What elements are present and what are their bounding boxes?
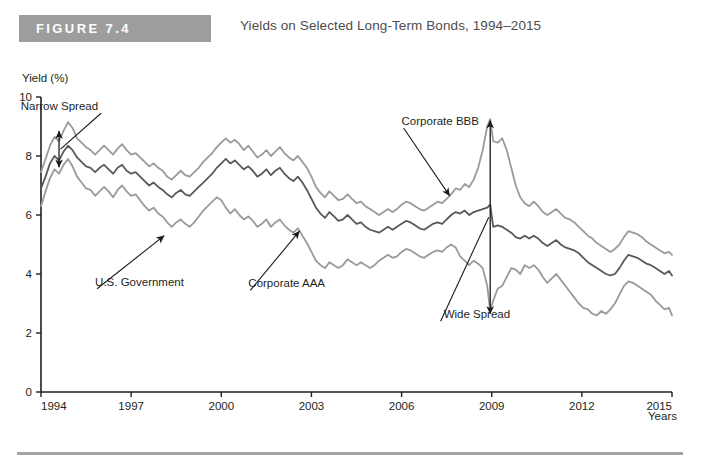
x-tick-label: 2012 (569, 400, 595, 412)
chart-container: Yield (%) Years 024681019941997200020032… (0, 0, 701, 462)
chart-plot-svg: 024681019941997200020032006200920122015N… (0, 0, 701, 462)
x-tick-label: 1997 (118, 400, 144, 412)
x-tick-label: 1994 (41, 400, 67, 412)
x-tick-label: 2000 (208, 400, 234, 412)
y-tick-label: 4 (26, 268, 33, 280)
x-tick-label: 2009 (479, 400, 505, 412)
footer-divider-rule (17, 452, 683, 455)
annotation-leader-wide-spread (441, 217, 489, 321)
annotation-leader-corporate-bbb (404, 128, 450, 196)
annotation-leader-narrow-spread (61, 113, 102, 149)
annotation-label-corporate-aaa: Corporate AAA (248, 277, 325, 289)
series-line-u-s-government (41, 159, 672, 315)
x-tick-label: 2003 (299, 400, 325, 412)
y-tick-label: 8 (26, 150, 32, 162)
annotation-label-narrow-spread: Narrow Spread (21, 100, 98, 112)
annotation-label-corporate-bbb: Corporate BBB (402, 115, 480, 127)
y-tick-label: 2 (26, 327, 32, 339)
y-tick-label: 0 (26, 386, 32, 398)
series-line-corporate-bbb (41, 119, 672, 255)
y-axis-title: Yield (%) (22, 72, 68, 84)
x-axis-title: Years (648, 410, 677, 422)
annotation-label-wide-spread: Wide Spread (444, 308, 510, 320)
annotation-label-u-s-government: U.S. Government (95, 276, 185, 288)
y-tick-label: 6 (26, 209, 32, 221)
x-tick-label: 2006 (389, 400, 415, 412)
series-line-corporate-aaa (41, 146, 672, 276)
